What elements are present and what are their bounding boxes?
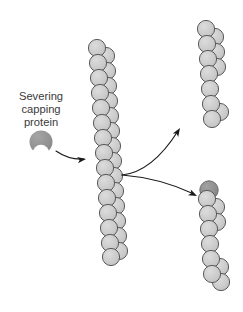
label-line-severing: Severing [19, 90, 63, 102]
severing-capping-protein-diagram: Severing capping protein [0, 0, 243, 312]
label-line-capping: capping [21, 103, 60, 115]
actin-subunit [102, 248, 119, 265]
severing-capping-protein-label: Severing capping protein [19, 90, 63, 128]
severing-capping-protein-icon [27, 128, 56, 157]
label-line-protein: protein [24, 116, 58, 128]
actin-subunit [203, 265, 220, 282]
crescent-shape [27, 128, 56, 157]
actin-subunit [203, 110, 220, 127]
diagram-canvas: Severing capping protein [0, 0, 243, 312]
